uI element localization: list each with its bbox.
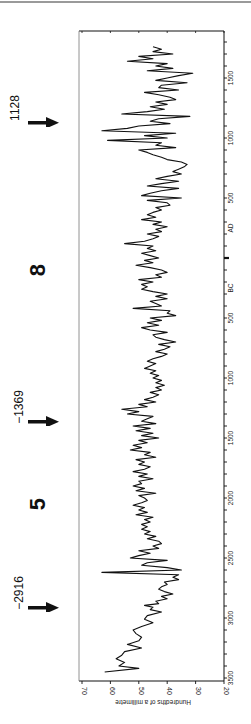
plot-frame (79, 31, 224, 681)
arrow-right-icon (28, 117, 60, 127)
event-year-label: −1369 (8, 392, 24, 422)
time-tick-label: AD (227, 223, 234, 232)
time-tick-label: 500 (227, 312, 234, 323)
time-axis-ticks: 15001000500ADBC5001000150020002500300035… (224, 42, 234, 685)
time-tick-label: 2500 (227, 550, 234, 565)
event-year-label: 1128 (8, 93, 24, 123)
value-tick-label: 50 (138, 687, 145, 695)
time-tick-label: 3500 (227, 670, 234, 685)
ring-width-series (102, 47, 193, 672)
time-tick-label: 1500 (227, 70, 234, 85)
event-year-text: −1369 (12, 390, 26, 424)
value-axis-label: Hundredths of a millimetre (115, 699, 191, 706)
time-tick-label: 2000 (227, 490, 234, 505)
tree-ring-chart: 15001000500ADBC5001000150020002500300035… (0, 0, 251, 724)
time-tick-label: 1000 (227, 370, 234, 385)
period-number: 5 (25, 498, 51, 510)
time-tick-label: 3000 (227, 610, 234, 625)
time-tick-label: 500 (227, 192, 234, 203)
arrow-right-icon (28, 602, 60, 612)
value-tick-label: 30 (195, 687, 202, 695)
event-year-text: 1128 (8, 95, 22, 121)
value-tick-label: 70 (81, 687, 88, 695)
time-tick-label: 1500 (227, 430, 234, 445)
arrow-right-icon (28, 416, 60, 426)
event-year-text: −2916 (12, 576, 26, 610)
period-number: 8 (25, 264, 51, 276)
value-tick-label: 40 (166, 687, 173, 695)
time-tick-label: 1000 (227, 130, 234, 145)
value-tick-label: 60 (109, 687, 116, 695)
value-tick-label: 20 (223, 687, 230, 695)
period-label: 8 (28, 256, 52, 284)
time-tick-label: BC (227, 283, 234, 292)
period-label: 5 (28, 490, 52, 518)
event-year-label: −2916 (8, 578, 24, 608)
